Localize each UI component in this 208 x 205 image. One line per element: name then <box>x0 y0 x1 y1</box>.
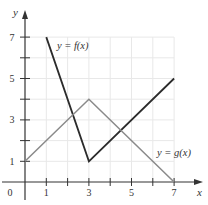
axes: x y <box>2 6 203 200</box>
x-tick-label: 0 <box>8 187 13 198</box>
x-tick-label: 5 <box>129 187 134 198</box>
x-axis-arrow-icon <box>194 179 203 185</box>
x-tick-label: 1 <box>44 187 49 198</box>
y-tick-label: 7 <box>10 32 15 43</box>
curve-label-g: y = g(x) <box>156 147 191 159</box>
x-tick-label: 7 <box>172 187 177 198</box>
curve-label-f: y = f(x) <box>56 40 89 52</box>
y-axis-label: y <box>12 6 18 18</box>
x-tick-label: 3 <box>86 187 91 198</box>
function-graph: x y 013571357 y = f(x)y = g(x) <box>0 0 208 205</box>
y-tick-label: 1 <box>10 156 15 167</box>
x-axis-label: x <box>196 186 202 198</box>
series <box>25 37 174 182</box>
y-tick-label: 5 <box>10 73 15 84</box>
y-axis-arrow-icon <box>22 10 28 19</box>
ticks: 013571357 <box>8 32 177 198</box>
y-tick-label: 3 <box>10 114 15 125</box>
